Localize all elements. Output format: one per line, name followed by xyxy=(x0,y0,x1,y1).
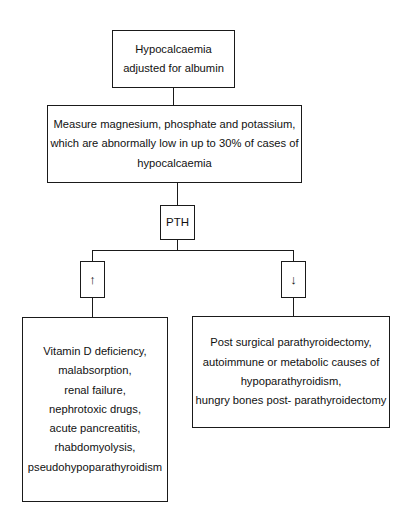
connector-start-to-measure xyxy=(173,88,174,105)
node-measure-line-1: Measure magnesium, phosphate and potassi… xyxy=(54,115,296,134)
node-measure-electrolytes: Measure magnesium, phosphate and potassi… xyxy=(47,105,302,183)
high-cause-line-1: Vitamin D deficiency, xyxy=(43,342,146,361)
connector-split-to-pth-high xyxy=(92,250,93,261)
low-cause-line-4: hungry bones post- parathyroidectomy xyxy=(196,391,387,410)
high-cause-line-5: acute pancreatitis, xyxy=(50,419,141,438)
high-cause-line-4: nephrotoxic drugs, xyxy=(49,400,141,419)
node-pth-label: PTH xyxy=(166,213,189,233)
low-cause-line-1: Post surgical parathyroidectomy, xyxy=(210,333,371,352)
node-pth-raised-branch: ↑ xyxy=(80,261,105,298)
high-cause-line-7: pseudohypoparathyroidism xyxy=(28,458,162,477)
flowchart-canvas: Hypocalcaemia adjusted for albumin Measu… xyxy=(0,0,411,521)
connector-pth-to-split xyxy=(177,240,178,250)
low-cause-line-3: hypoparathyroidism, xyxy=(241,372,342,391)
high-cause-line-2: malabsorption, xyxy=(58,361,131,380)
connector-split-to-pth-low xyxy=(293,250,294,261)
node-measure-line-2: which are abnormally low in up to 30% of… xyxy=(50,134,298,153)
node-start-line-1: Hypocalcaemia xyxy=(135,40,211,59)
connector-pth-high-to-causes xyxy=(92,298,93,317)
node-pth-low-branch: ↓ xyxy=(281,261,306,298)
connector-split-bar xyxy=(92,250,294,251)
connector-pth-low-to-causes xyxy=(293,298,294,316)
arrow-down-icon: ↓ xyxy=(290,273,297,286)
node-pth-decision: PTH xyxy=(160,205,195,240)
node-measure-line-3: hypocalcaemia xyxy=(137,154,212,173)
high-cause-line-6: rhabdomyolysis, xyxy=(55,438,136,457)
arrow-up-icon: ↑ xyxy=(89,273,96,286)
node-raised-pth-causes: Vitamin D deficiency, malabsorption, ren… xyxy=(22,317,168,502)
high-cause-line-3: renal failure, xyxy=(64,381,126,400)
low-cause-line-2: autoimmune or metabolic causes of xyxy=(203,353,380,372)
node-low-pth-causes: Post surgical parathyroidectomy, autoimm… xyxy=(192,316,390,428)
connector-measure-to-pth xyxy=(177,183,178,205)
node-hypocalcaemia-start: Hypocalcaemia adjusted for albumin xyxy=(112,30,235,88)
node-start-line-2: adjusted for albumin xyxy=(123,59,224,78)
